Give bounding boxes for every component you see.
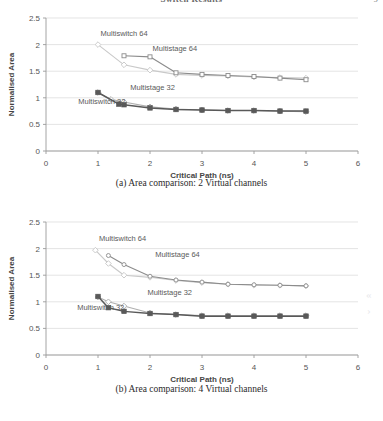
- page-header: Switch Results 9: [0, 0, 383, 9]
- y-tick-label: 1: [36, 298, 41, 307]
- x-tick-label: 5: [304, 363, 309, 372]
- series-annotation-label: Multistage 32: [130, 83, 175, 92]
- data-point-marker: [148, 274, 152, 278]
- data-point-marker: [200, 108, 205, 113]
- data-point-marker: [96, 294, 101, 299]
- data-point-marker: [174, 107, 179, 112]
- y-tick-label: 0.5: [29, 120, 41, 129]
- y-axis-title: Normalised Area: [7, 256, 16, 320]
- data-point-marker: [148, 106, 153, 111]
- scan-speck: «: [366, 288, 372, 300]
- figure-b: 00.511.522.50123456Critical Path (ns)Nor…: [0, 214, 383, 414]
- data-point-marker: [122, 54, 126, 58]
- data-point-marker: [304, 78, 308, 82]
- data-point-marker: [200, 72, 204, 76]
- data-point-marker: [252, 314, 257, 319]
- chart-a-area-comparison-2vc: 00.511.522.50123456Critical Path (ns)Nor…: [0, 10, 383, 188]
- plot-area: 00.511.522.50123456Critical Path (ns)Nor…: [7, 218, 361, 384]
- chart-b-area-comparison-4vc: 00.511.522.50123456Critical Path (ns)Nor…: [0, 214, 383, 392]
- data-point-marker: [278, 109, 283, 114]
- data-point-marker: [304, 284, 308, 288]
- y-axis-title: Normalised Area: [7, 52, 16, 116]
- x-tick-label: 1: [96, 159, 101, 168]
- x-tick-label: 0: [44, 159, 49, 168]
- data-point-marker: [304, 109, 309, 114]
- x-tick-label: 5: [304, 159, 309, 168]
- data-point-marker: [226, 314, 231, 319]
- x-tick-label: 0: [44, 363, 49, 372]
- data-point-marker: [200, 280, 204, 284]
- data-point-marker: [200, 314, 205, 319]
- y-tick-label: 0: [36, 147, 41, 156]
- y-tick-label: 2: [36, 245, 41, 254]
- figure-a: 00.511.522.50123456Critical Path (ns)Nor…: [0, 10, 383, 206]
- y-tick-label: 2: [36, 41, 41, 50]
- y-tick-label: 1: [36, 94, 41, 103]
- series-annotation-label: Multiswitch 32: [77, 303, 124, 312]
- x-tick-label: 4: [252, 159, 257, 168]
- data-point-marker: [174, 312, 179, 317]
- data-point-marker: [147, 67, 153, 73]
- data-point-marker: [174, 71, 178, 75]
- series-multiswitch-32: [96, 294, 309, 318]
- data-point-marker: [252, 108, 257, 113]
- data-point-marker: [226, 73, 230, 77]
- plot-area: 00.511.522.50123456Critical Path (ns)Nor…: [7, 14, 361, 180]
- data-point-marker: [278, 314, 283, 319]
- x-tick-label: 3: [200, 363, 205, 372]
- data-point-marker: [252, 283, 256, 287]
- figure-b-caption: (b) Area comparison: 4 Virtual channels: [0, 384, 383, 394]
- series-annotation-label: Multistage 64: [153, 44, 198, 53]
- data-point-marker: [304, 314, 309, 319]
- x-tick-label: 1: [96, 363, 101, 372]
- y-tick-label: 0: [36, 351, 41, 360]
- figure-a-caption: (a) Area comparison: 2 Virtual channels: [0, 178, 383, 188]
- y-tick-label: 2.5: [29, 14, 41, 23]
- header-title: Switch Results: [0, 0, 383, 4]
- data-point-marker: [174, 278, 178, 282]
- x-tick-label: 2: [148, 363, 153, 372]
- series-annotation-label: Multiswitch 64: [99, 234, 146, 243]
- series-line: [108, 256, 306, 286]
- data-point-marker: [226, 108, 231, 113]
- y-tick-label: 2.5: [29, 218, 41, 227]
- series-multistage-64: [106, 254, 308, 288]
- y-tick-label: 1.5: [29, 67, 41, 76]
- data-point-marker: [122, 263, 126, 267]
- data-point-marker: [148, 311, 153, 316]
- y-tick-label: 0.5: [29, 324, 41, 333]
- data-point-marker: [148, 55, 152, 59]
- x-tick-label: 6: [356, 159, 361, 168]
- series-multiswitch-32: [96, 90, 309, 113]
- x-tick-label: 6: [356, 363, 361, 372]
- data-point-marker: [278, 76, 282, 80]
- scanned-page: Switch Results 9 00.511.522.50123456Crit…: [0, 0, 383, 421]
- x-tick-label: 4: [252, 363, 257, 372]
- series-annotation-label: Multiswitch 32: [78, 97, 125, 106]
- data-point-marker: [252, 75, 256, 79]
- x-tick-label: 2: [148, 159, 153, 168]
- header-page-number: 9: [374, 0, 379, 4]
- x-axis-title: Critical Path (ns): [170, 375, 234, 384]
- data-point-marker: [278, 283, 282, 287]
- series-annotation-label: Multistage 64: [155, 250, 200, 259]
- data-point-marker: [96, 90, 101, 95]
- series-annotation-label: Multiswitch 64: [101, 29, 148, 38]
- scan-speck: ›: [367, 304, 371, 316]
- x-tick-label: 3: [200, 159, 205, 168]
- data-point-marker: [226, 282, 230, 286]
- y-tick-label: 1.5: [29, 271, 41, 280]
- series-annotation-label: Multistage 32: [147, 288, 192, 297]
- data-point-marker: [106, 254, 110, 258]
